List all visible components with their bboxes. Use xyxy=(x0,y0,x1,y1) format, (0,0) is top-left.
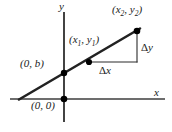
label-point-two: (x2, y2) xyxy=(112,4,142,18)
label-delta-y: Δy xyxy=(141,42,153,53)
delta-x-variable: x xyxy=(106,64,111,76)
label-point-two-close: ) xyxy=(138,3,142,15)
point-one xyxy=(86,59,92,65)
label-y-intercept: (0, b) xyxy=(20,58,44,69)
point-y-intercept xyxy=(61,70,67,76)
label-point-one: (x1, y1) xyxy=(69,34,99,48)
x-axis-label: x xyxy=(154,87,159,98)
point-two xyxy=(134,28,141,35)
delta-y-variable: y xyxy=(148,41,153,53)
label-delta-x: Δx xyxy=(99,65,111,76)
y-axis-label: y xyxy=(59,1,64,12)
label-origin: (0, 0) xyxy=(31,100,55,111)
slope-diagram-figure: (x2, y2) (x1, y1) (0, b) (0, 0) Δy Δx y … xyxy=(0,0,172,132)
point-origin xyxy=(61,96,68,103)
label-point-one-close: ) xyxy=(95,33,99,45)
